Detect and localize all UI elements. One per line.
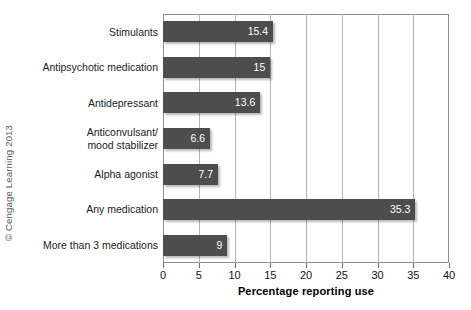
bar-value-label: 13.6: [235, 92, 255, 113]
category-label: Alpha agonist: [0, 168, 158, 181]
x-tick-5: [199, 263, 200, 268]
x-tick-30: [378, 263, 379, 268]
x-tick-15: [270, 263, 271, 268]
category-label: More than 3 medications: [0, 239, 158, 252]
category-label: Antipsychotic medication: [0, 61, 158, 74]
x-tick-label-10: 10: [215, 269, 255, 281]
bar-value-label: 35.3: [390, 199, 410, 220]
x-tick-35: [413, 263, 414, 268]
category-label: Antidepressant: [0, 97, 158, 110]
bar-row[interactable]: 9: [163, 235, 227, 256]
bar-row[interactable]: 13.6: [163, 92, 260, 113]
gridline-35: [413, 14, 414, 263]
gridline-25: [342, 14, 343, 263]
x-tick-40: [449, 263, 450, 268]
bar-row[interactable]: 6.6: [163, 128, 210, 149]
gridline-10: [235, 14, 236, 263]
x-tick-label-25: 25: [322, 269, 362, 281]
x-tick-label-5: 5: [179, 269, 219, 281]
x-tick-25: [342, 263, 343, 268]
x-tick-20: [306, 263, 307, 268]
gridline-30: [378, 14, 379, 263]
gridline-15: [270, 14, 271, 263]
bar-row[interactable]: 15.4: [163, 21, 273, 42]
bar-chart: 15.41513.66.67.735.39 StimulantsAntipsyc…: [0, 0, 471, 310]
bar-value-label: 15: [254, 57, 266, 78]
bar[interactable]: [163, 199, 415, 220]
x-tick-label-35: 35: [393, 269, 433, 281]
category-label: Anticonvulsant/ mood stabilizer: [0, 126, 158, 151]
bar-value-label: 15.4: [248, 21, 268, 42]
x-tick-label-0: 0: [143, 269, 183, 281]
x-tick-10: [235, 263, 236, 268]
x-tick-label-40: 40: [429, 269, 469, 281]
bar-value-label: 6.6: [191, 128, 206, 149]
category-label: Any medication: [0, 203, 158, 216]
bar-value-label: 7.7: [198, 164, 213, 185]
bar-row[interactable]: 15: [163, 57, 270, 78]
category-label: Stimulants: [0, 26, 158, 39]
x-tick-label-30: 30: [358, 269, 398, 281]
gridline-20: [306, 14, 307, 263]
x-tick-label-20: 20: [286, 269, 326, 281]
x-tick-0: [163, 263, 164, 268]
x-tick-label-15: 15: [250, 269, 290, 281]
bar-row[interactable]: 35.3: [163, 199, 415, 220]
bar-row[interactable]: 7.7: [163, 164, 218, 185]
bar-value-label: 9: [217, 235, 223, 256]
x-axis-title: Percentage reporting use: [163, 285, 449, 297]
